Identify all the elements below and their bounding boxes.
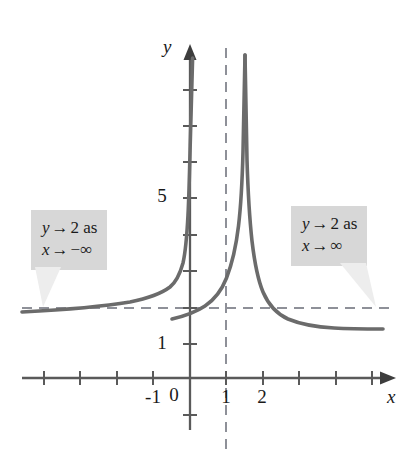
y-tick-label-5: 5 (152, 185, 172, 207)
x-tick-label-2: 2 (252, 386, 272, 408)
y-tick-label-1: 1 (152, 332, 172, 354)
callout-left-tail-svg (31, 267, 101, 313)
y-axis-label: y (163, 36, 171, 58)
callout-left-limit: y→2 as x→−∞ (31, 210, 107, 270)
callout-left-line1: y→2 as (42, 217, 97, 239)
graph-figure: y→2 as x→−∞ y→2 as x→∞ y x -1 0 1 2 5 1 (0, 0, 407, 466)
callout-left-line2: x→−∞ (42, 239, 97, 261)
callout-right-limit: y→2 as x→∞ (291, 206, 367, 266)
callout-right-line1: y→2 as (302, 213, 357, 235)
callout-right-line2: x→∞ (302, 235, 357, 257)
x-tick-label-0: 0 (163, 384, 185, 406)
callout-right-tail-svg (338, 263, 407, 311)
x-tick-label-1: 1 (216, 386, 236, 408)
callout-left-tail (35, 267, 61, 307)
x-axis-label: x (387, 386, 395, 408)
callout-right-tail (340, 263, 376, 307)
